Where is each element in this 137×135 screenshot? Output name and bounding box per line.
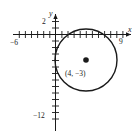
y-tick-label-2: 2 bbox=[42, 18, 46, 26]
y-axis-label: y bbox=[49, 10, 53, 18]
center-point-marker bbox=[83, 57, 89, 63]
graph-figure: x y −6 9 2 −12 (4, −3) bbox=[0, 0, 137, 135]
x-axis-label: x bbox=[128, 26, 132, 34]
y-tick-label-neg12: −12 bbox=[33, 112, 45, 120]
center-point-label: (4, −3) bbox=[65, 70, 85, 78]
y-axis-arrowhead bbox=[53, 14, 57, 19]
x-tick-label-neg6: −6 bbox=[10, 39, 18, 47]
x-tick-label-9: 9 bbox=[119, 38, 123, 46]
coordinate-plane-svg bbox=[0, 0, 137, 135]
